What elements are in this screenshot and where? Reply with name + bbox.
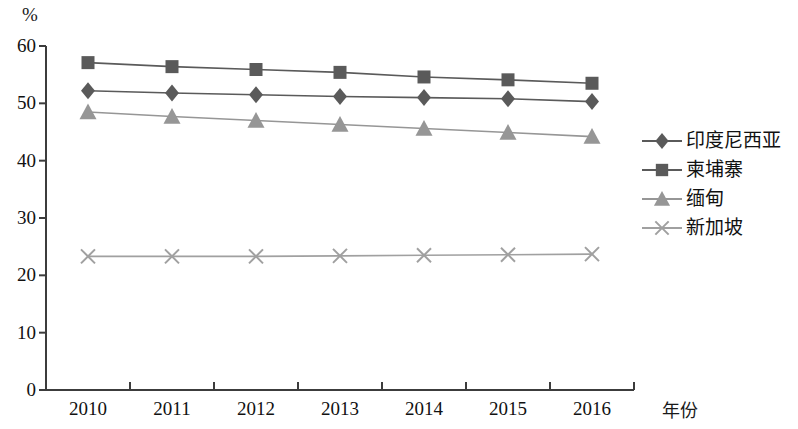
data-point-marker <box>249 86 263 103</box>
x-axis-title: 年份 <box>662 396 698 422</box>
series-square <box>82 56 599 90</box>
y-axis-tick-label: 50 <box>0 92 36 114</box>
data-point-marker <box>82 56 95 69</box>
legend-label: 新加坡 <box>684 218 743 237</box>
data-point-marker <box>656 163 668 175</box>
legend-item-0[interactable]: 印度尼西亚 <box>640 126 798 155</box>
x-axis-tick-label: 2013 <box>298 398 382 420</box>
legend-label: 柬埔寨 <box>684 160 743 179</box>
y-axis-tick-label: 20 <box>0 264 36 286</box>
data-point-marker <box>501 90 515 107</box>
y-axis-tick-label: 60 <box>0 35 36 57</box>
series-diamond <box>81 82 599 110</box>
data-point-marker <box>655 132 668 148</box>
y-axis-tick-label: 40 <box>0 150 36 172</box>
x-axis-tick-label: 2015 <box>466 398 550 420</box>
legend-marker-triangle-icon <box>640 186 684 212</box>
legend-label: 缅甸 <box>684 189 724 208</box>
y-axis-tick-label: 0 <box>0 379 36 401</box>
series-triangle <box>80 103 601 143</box>
legend-item-3[interactable]: 新加坡 <box>640 213 798 242</box>
y-axis-tick-label: 10 <box>0 322 36 344</box>
data-point-marker <box>585 93 599 110</box>
data-point-marker <box>81 82 95 99</box>
y-axis-unit-label: % <box>22 4 38 26</box>
data-point-marker <box>417 89 431 106</box>
y-axis-tick-label: 30 <box>0 207 36 229</box>
data-point-marker <box>418 70 431 83</box>
legend-label: 印度尼西亚 <box>684 131 781 150</box>
x-axis-tick-label: 2014 <box>382 398 466 420</box>
x-axis-tick-label: 2010 <box>46 398 130 420</box>
data-point-marker <box>80 103 97 119</box>
legend-item-2[interactable]: 缅甸 <box>640 184 798 213</box>
legend-marker-diamond-icon <box>640 128 684 154</box>
data-point-marker <box>334 66 347 79</box>
data-point-marker <box>250 63 263 76</box>
series-x <box>81 247 599 263</box>
x-axis-tick-label: 2011 <box>130 398 214 420</box>
line-chart: % 0102030405060 201020112012201320142015… <box>0 0 798 429</box>
x-axis-tick-label: 2012 <box>214 398 298 420</box>
data-point-marker <box>165 85 179 102</box>
legend-item-1[interactable]: 柬埔寨 <box>640 155 798 184</box>
data-point-marker <box>586 77 599 90</box>
data-point-marker <box>502 73 515 86</box>
chart-legend: 印度尼西亚柬埔寨缅甸新加坡 <box>640 126 798 242</box>
x-axis-tick-label: 2016 <box>550 398 634 420</box>
data-point-marker <box>166 60 179 73</box>
legend-marker-x-icon <box>640 215 684 241</box>
data-point-marker <box>333 88 347 105</box>
legend-marker-square-icon <box>640 157 684 183</box>
